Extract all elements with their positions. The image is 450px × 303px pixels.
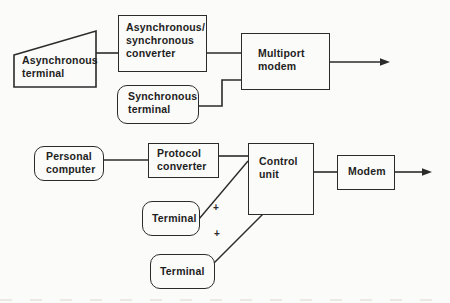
node-modem: Modem [337,155,395,190]
node-control-unit: Control unit [248,143,314,215]
node-async-terminal-label: Asynchronous terminal [22,54,98,80]
arrow-modem-output-head [422,168,432,176]
node-personal-computer: Personal computer [34,146,104,181]
node-sync-terminal: Synchronous terminal [117,85,199,124]
scan-artifact-strip [0,299,450,301]
node-protocol-converter: Protocol converter [148,143,219,178]
node-terminal-1: Terminal [142,201,200,236]
arrow-multiportmodem-output-head [380,58,390,66]
diagram-canvas: Asynchronous terminal Asynchronous/ sync… [0,0,450,303]
plus-marker-upper: + [213,202,219,213]
plus-marker-lower: + [214,228,220,239]
node-multiport-modem: Multiport modem [241,33,330,90]
node-terminal-2: Terminal [150,254,215,289]
connector-syncterminal-multiportmodem [199,80,241,106]
node-async-sync-converter: Asynchronous/ synchronous converter [118,15,207,72]
connector-terminal2-controlunit [213,214,263,264]
